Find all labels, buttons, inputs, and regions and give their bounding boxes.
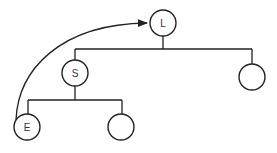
node-e: E [14, 114, 40, 140]
edges-from-s [28, 86, 122, 114]
node-s-label: S [72, 68, 79, 79]
node-right-empty [239, 64, 265, 90]
tree-diagram: L S E [0, 0, 277, 153]
node-s: S [62, 60, 88, 86]
node-l-label: L [160, 18, 166, 29]
node-bottom-empty [108, 114, 134, 140]
edges-from-l [75, 36, 252, 64]
node-l: L [150, 10, 176, 36]
node-e-label: E [24, 122, 31, 133]
